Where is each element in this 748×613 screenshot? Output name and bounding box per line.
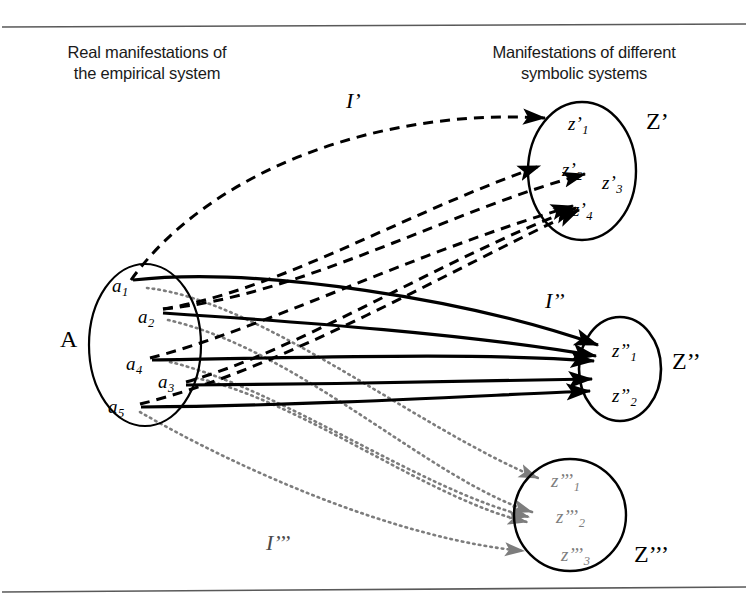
element-z3-prime: z’3	[602, 172, 622, 197]
mapping-label-I2: I’’	[545, 288, 565, 314]
element-z4-prime: z’4	[572, 199, 592, 224]
set-label-A: A	[60, 326, 77, 353]
mapping-label-I3: I’’’	[266, 530, 290, 556]
element-z1-dprime: z’’1	[612, 340, 637, 365]
element-z2-prime: z’2	[562, 159, 582, 184]
bottom-rule	[2, 587, 746, 592]
set-label-Z3: Z’’’	[634, 541, 669, 568]
header-right: Manifestations of different symbolic sys…	[450, 42, 718, 84]
element-z1-prime: z’1	[568, 113, 588, 138]
element-a1: a1	[112, 275, 128, 300]
element-a3: a3	[158, 371, 174, 396]
set-label-Z1: Z’	[646, 108, 669, 135]
element-z2-dprime: z’’2	[612, 385, 637, 410]
element-a4: a4	[126, 353, 142, 378]
element-a2: a2	[138, 306, 154, 331]
mapping-label-I1: I’	[346, 88, 361, 114]
element-z1-tprime: z’’’1	[551, 470, 580, 495]
top-rule	[2, 24, 746, 27]
element-z2-tprime: z’’’2	[556, 506, 585, 531]
element-z3-tprime: z’’’3	[561, 544, 590, 569]
header-left: Real manifestations of the empirical sys…	[22, 42, 272, 84]
diagram-svg	[0, 0, 748, 613]
figure-canvas: Real manifestations of the empirical sys…	[0, 0, 748, 613]
element-a5: a5	[108, 396, 124, 421]
set-label-Z2: Z’’	[672, 348, 701, 375]
